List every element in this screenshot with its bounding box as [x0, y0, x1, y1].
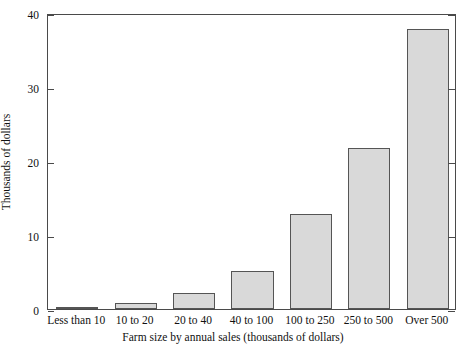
y-axis-tick-mark [48, 237, 54, 238]
y-axis-tick-label: 20 [28, 157, 40, 169]
x-axis-tick-label: Over 500 [405, 314, 448, 326]
bar [290, 214, 332, 309]
y-axis-tick-mark-right [448, 163, 455, 164]
bars-layer [48, 15, 455, 309]
y-axis-tick-mark [48, 311, 54, 312]
x-axis-tick-label: 250 to 500 [344, 314, 393, 326]
y-axis-tick-label: 0 [33, 305, 39, 317]
y-axis-tick-label: 30 [28, 83, 40, 95]
bar [56, 307, 98, 309]
y-axis-tick-mark [48, 89, 54, 90]
bar [173, 293, 215, 309]
x-axis-tick-label: 40 to 100 [230, 314, 273, 326]
x-axis-title: Farm size by annual sales (thousands of … [0, 331, 466, 343]
bar [348, 148, 390, 309]
plot-area: 010203040 [47, 14, 456, 310]
x-axis-tick-label: 20 to 40 [174, 314, 212, 326]
x-axis-tick-label: 100 to 250 [285, 314, 334, 326]
y-axis-tick-mark-right [448, 237, 455, 238]
y-axis-title: Thousands of dollars [0, 114, 12, 210]
chart-container: Thousands of dollars 010203040 Less than… [0, 0, 466, 356]
y-axis-tick-label: 10 [28, 231, 40, 243]
x-axis-tick-label: 10 to 20 [116, 314, 154, 326]
y-axis-tick-label: 40 [28, 9, 40, 21]
y-axis-tick-mark-right [448, 89, 455, 90]
y-axis-tick-mark [48, 163, 54, 164]
bar [115, 303, 157, 309]
x-axis-tick-label: Less than 10 [47, 314, 105, 326]
y-axis-tick-mark-right [448, 311, 455, 312]
y-axis-tick-mark-right [448, 15, 455, 16]
y-axis-tick-mark [48, 15, 54, 16]
bar [231, 271, 273, 309]
bar [407, 29, 449, 309]
